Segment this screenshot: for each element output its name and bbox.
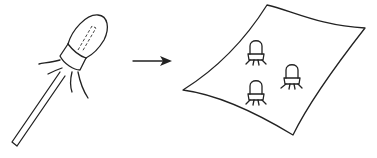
swab-icon	[12, 15, 107, 146]
diagram-canvas	[0, 0, 377, 158]
arrow-right-icon	[133, 56, 172, 66]
microbe-icon	[246, 81, 266, 105]
microbe-icon	[281, 65, 302, 89]
sheet-icon	[183, 5, 365, 135]
microbe-icon	[246, 41, 266, 65]
